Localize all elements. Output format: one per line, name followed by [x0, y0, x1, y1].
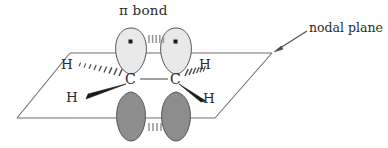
- atom-label-carbon-right: C: [170, 72, 181, 86]
- pi-overlap-dashes-bottom: [149, 123, 161, 131]
- p-lobe-bottom-right: [162, 92, 191, 141]
- nodal-plane-label: nodal plane: [309, 22, 383, 35]
- bond-solid-wedge-lower-left: [86, 84, 126, 99]
- p-lobe-top-right: [161, 28, 192, 74]
- nodal-plane-right-edge: [215, 53, 272, 118]
- p-orbital-lobes-bottom: [117, 92, 191, 141]
- figure-title: π bond: [119, 4, 167, 18]
- p-lobe-bottom-left: [117, 92, 146, 141]
- atom-label-hydrogen-lower-right: H: [203, 92, 215, 106]
- p-orbital-lobes-top: [116, 28, 192, 74]
- pi-bond-diagram: π bond nodal plane C C H H H H: [0, 0, 388, 148]
- atom-label-hydrogen-lower-left: H: [66, 91, 78, 105]
- p-lobe-top-left: [116, 28, 147, 74]
- nodal-plane-arrow: [274, 31, 307, 52]
- nodal-plane-arrowhead: [274, 46, 283, 52]
- bond-hashed-wedge-upper-left: [79, 63, 122, 76]
- electron-dot-right: [174, 40, 178, 44]
- atom-label-hydrogen-upper-right: H: [199, 58, 211, 72]
- atom-label-carbon-left: C: [125, 72, 136, 86]
- electron-dot-left: [129, 40, 133, 44]
- atom-label-hydrogen-upper-left: H: [61, 58, 73, 72]
